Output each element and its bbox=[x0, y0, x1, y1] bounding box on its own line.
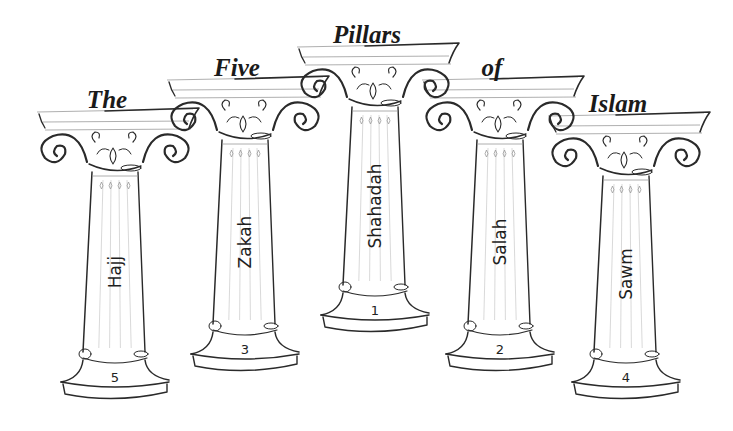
pillar-rank: 4 bbox=[622, 370, 630, 385]
title-word: Five bbox=[213, 54, 260, 81]
pillar-sawm: IslamSawm4 bbox=[548, 90, 710, 399]
title-word: Pillars bbox=[332, 21, 401, 48]
volute-scrolls-icon bbox=[41, 132, 188, 171]
pillar-label: Zakah bbox=[235, 216, 255, 269]
pillar-label: Salah bbox=[490, 218, 510, 265]
volute-scrolls-icon bbox=[171, 100, 318, 139]
pillar-hajj: TheHajj5 bbox=[37, 86, 199, 399]
volute-scrolls-icon bbox=[426, 100, 573, 139]
title-word: of bbox=[482, 54, 506, 81]
volute-scrolls-icon bbox=[552, 136, 699, 175]
pillar-rank: 3 bbox=[241, 342, 249, 357]
pillar-label: Hajj bbox=[105, 256, 125, 289]
pillar-rank: 2 bbox=[496, 342, 504, 357]
pillar-rank: 1 bbox=[371, 303, 379, 318]
pillar-label: Sawm bbox=[616, 248, 636, 300]
title-word: Islam bbox=[588, 90, 647, 117]
pillar-shahadah: PillarsShahadah1 bbox=[297, 21, 459, 332]
title-word: The bbox=[87, 86, 127, 113]
pillars-illustration: TheHajj5IslamSawm4FiveZakah3ofSalah2Pill… bbox=[0, 0, 733, 431]
pillar-salah: ofSalah2 bbox=[422, 54, 584, 371]
pillar-zakah: FiveZakah3 bbox=[167, 54, 329, 371]
pillar-label: Shahadah bbox=[365, 163, 385, 248]
pillar-rank: 5 bbox=[111, 370, 119, 385]
